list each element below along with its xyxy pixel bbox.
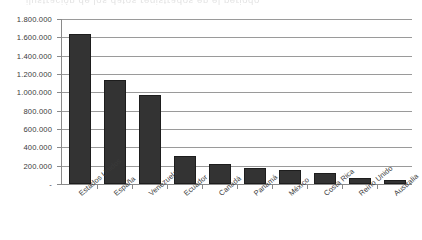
gridline <box>62 56 412 57</box>
gridline <box>62 37 412 38</box>
y-axis-tick-mark <box>57 19 62 20</box>
y-axis-tick-mark <box>57 37 62 38</box>
y-axis-tick-mark <box>57 147 62 148</box>
y-axis-tick-label: - <box>49 180 52 189</box>
y-axis-tick-mark <box>57 111 62 112</box>
y-axis-tick-label: 600.000 <box>24 125 53 134</box>
y-axis-tick-mark <box>57 166 62 167</box>
y-axis-tick-label: 400.000 <box>24 143 53 152</box>
y-axis-tick-mark <box>57 56 62 57</box>
y-axis-tick-mark <box>57 74 62 75</box>
y-axis: -200.000400.000600.000800.0001.000.0001.… <box>0 0 58 240</box>
y-axis-tick-label: 800.000 <box>24 106 53 115</box>
bar-chart: -200.000400.000600.000800.0001.000.0001.… <box>0 0 422 240</box>
y-axis-tick-label: 200.000 <box>24 161 53 170</box>
bar[interactable] <box>139 95 161 184</box>
bar[interactable] <box>174 156 196 184</box>
y-axis-tick-label: 1.200.000 <box>17 70 52 79</box>
y-axis-tick-mark <box>57 184 62 185</box>
gridline <box>62 19 412 20</box>
y-axis-tick-label: 1.400.000 <box>17 51 52 60</box>
y-axis-tick-label: 1.000.000 <box>17 88 52 97</box>
y-axis-tick-label: 1.800.000 <box>17 15 52 24</box>
y-axis-tick-label: 1.600.000 <box>17 33 52 42</box>
y-axis-tick-mark <box>57 129 62 130</box>
bar[interactable] <box>69 34 91 184</box>
gridline <box>62 74 412 75</box>
y-axis-tick-mark <box>57 92 62 93</box>
y-axis-line <box>61 19 62 185</box>
